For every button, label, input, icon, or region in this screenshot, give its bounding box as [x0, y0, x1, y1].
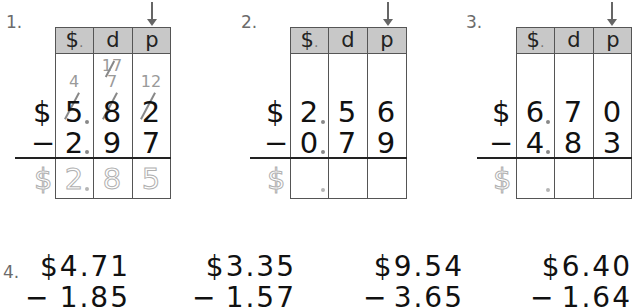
problem-number: 1. — [6, 12, 22, 32]
digit: 7 — [554, 95, 592, 129]
digit: 9 — [93, 126, 131, 160]
digit: 4 — [516, 126, 554, 160]
decimal-point — [85, 150, 89, 154]
header-dollars: $. — [517, 28, 554, 53]
minuend: $9.54 — [368, 250, 464, 283]
subtrahend: 1.57 — [200, 281, 296, 308]
minus-sign: − — [489, 126, 513, 160]
header-pennies: p — [133, 28, 171, 53]
header-dimes: d — [94, 28, 132, 53]
digit: 6 — [367, 95, 405, 129]
problem-number: 4. — [3, 262, 19, 282]
answer-digit: 8 — [93, 162, 131, 196]
header-dimes: d — [555, 28, 593, 53]
answer-input-dimes[interactable] — [329, 160, 366, 198]
header-dimes: d — [329, 28, 367, 53]
answer-line — [15, 157, 171, 159]
answer-digit: 5 — [132, 162, 170, 196]
minus-sign: − — [25, 281, 39, 308]
answer-dollar-sign: $ — [493, 162, 511, 196]
answer-input-dollars[interactable] — [291, 160, 327, 198]
digit: 0 — [593, 95, 631, 129]
answer-dollar-sign: $ — [34, 162, 52, 196]
problem-number: 3. — [466, 12, 482, 32]
decimal-point — [321, 150, 325, 154]
minus-sign: − — [264, 126, 288, 160]
dollar-sign: $ — [266, 95, 284, 129]
arrow-down-icon — [611, 2, 613, 20]
dollar-sign: $ — [492, 95, 510, 129]
regroup-mark: 7 — [93, 72, 131, 91]
minuend: $3.35 — [200, 250, 296, 283]
answer-input-pennies[interactable] — [368, 160, 405, 198]
answer-input-dollars[interactable] — [517, 160, 553, 198]
header-pennies: p — [594, 28, 632, 53]
regroup-mark: 4 — [55, 72, 93, 91]
digit: 3 — [593, 126, 631, 160]
minuend: $4.71 — [40, 250, 130, 283]
digit: 2 — [55, 126, 93, 160]
digit: 7 — [328, 126, 366, 160]
answer-input-pennies[interactable] — [594, 160, 631, 198]
minuend: $6.40 — [534, 250, 632, 283]
decimal-point — [321, 120, 325, 124]
digit: 8 — [554, 126, 592, 160]
digit: 0 — [290, 126, 328, 160]
regroup-mark: 12 — [132, 72, 170, 91]
subtrahend: 3.65 — [368, 281, 464, 308]
digit: 8 — [93, 95, 131, 129]
header-dollars: $. — [291, 28, 328, 53]
dollar-sign: $ — [33, 95, 51, 129]
decimal-point — [85, 187, 89, 191]
answer-line — [477, 157, 632, 159]
subtrahend: 1.64 — [534, 281, 632, 308]
answer-input-dimes[interactable] — [555, 160, 592, 198]
answer-dollar-sign: $ — [267, 162, 285, 196]
digit: 7 — [132, 126, 170, 160]
decimal-point — [85, 120, 89, 124]
digit: 5 — [328, 95, 366, 129]
decimal-point — [546, 150, 550, 154]
answer-line — [250, 157, 407, 159]
header-dollars: $. — [56, 28, 93, 53]
arrow-down-icon — [387, 2, 389, 20]
minus-sign: − — [31, 126, 55, 160]
subtrahend: 1.85 — [40, 281, 130, 308]
problem-number: 2. — [241, 12, 257, 32]
digit: 2 — [132, 95, 170, 129]
header-pennies: p — [368, 28, 406, 53]
decimal-point — [546, 120, 550, 124]
arrow-down-icon — [151, 2, 153, 20]
digit: 9 — [367, 126, 405, 160]
